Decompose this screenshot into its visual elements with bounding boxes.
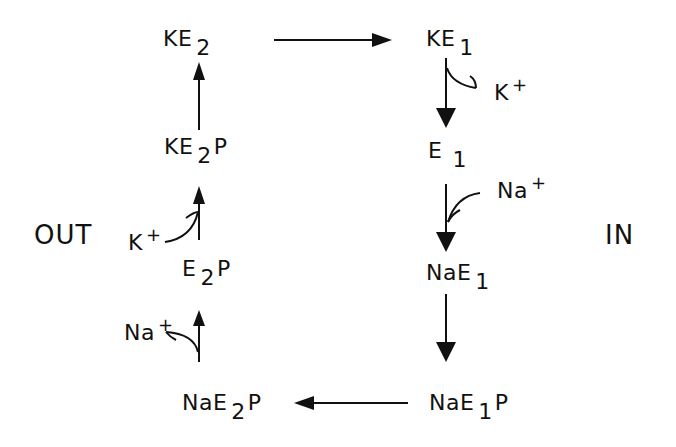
ion-k-release-in: K+ (494, 82, 528, 104)
k-bind-curve (165, 212, 198, 242)
state-subscript: 1 (475, 269, 490, 294)
arrow-ke1-to-e1 (436, 58, 456, 128)
state-base: KE (164, 134, 193, 159)
state-ke1: KE1 (426, 28, 476, 50)
state-subscript: 1 (452, 147, 467, 172)
state-ke2: KE2 (163, 28, 213, 50)
ion-charge: + (512, 74, 528, 95)
arrow-nae1p-to-nae2p (294, 396, 408, 410)
arrow-nae2p-to-e2p (193, 310, 205, 362)
state-nae1: NaE1 (426, 262, 492, 284)
state-subscript: 2 (197, 143, 212, 168)
state-subscript: 2 (200, 265, 215, 290)
ion-base: Na (124, 320, 155, 345)
arrow-e1-to-nae1 (436, 184, 456, 252)
state-base: KE (163, 26, 192, 51)
state-suffix: P (248, 390, 262, 415)
ion-charge: + (531, 172, 547, 193)
ion-base: K (494, 80, 509, 105)
state-subscript: 1 (459, 35, 474, 60)
compartment-in-label: IN (605, 222, 634, 248)
ion-charge: + (146, 224, 162, 245)
state-base: E (182, 256, 196, 281)
state-nae1p: NaE1P (429, 392, 509, 414)
state-subscript: 1 (478, 399, 493, 424)
state-subscript: 2 (231, 399, 246, 424)
state-e1: E1 (428, 140, 469, 162)
arrow-ke2p-to-ke2 (193, 62, 205, 130)
ion-na-bind-in: Na+ (497, 180, 547, 202)
ion-base: K (128, 230, 143, 255)
compartment-out-label: OUT (34, 222, 92, 248)
state-subscript: 2 (196, 35, 211, 60)
ion-charge: + (158, 314, 174, 335)
ion-na-release-out: Na+ (124, 322, 174, 344)
state-e2p: E2P (182, 258, 231, 280)
state-base: KE (426, 26, 455, 51)
state-nae2p: NaE2P (182, 392, 262, 414)
ion-k-bind-out: K+ (128, 232, 162, 254)
na-bind-curve (448, 193, 480, 222)
arrow-ke2-to-ke1 (274, 33, 392, 47)
state-base: NaE (182, 390, 227, 415)
state-suffix: P (214, 134, 228, 159)
ion-base: Na (497, 178, 528, 203)
state-base: NaE (429, 390, 474, 415)
arrows-layer (0, 0, 676, 447)
state-base: NaE (426, 260, 471, 285)
state-base: E (428, 138, 442, 163)
arrow-nae1-to-nae1p (436, 294, 456, 362)
state-ke2p: KE2P (164, 136, 228, 158)
state-suffix: P (217, 256, 231, 281)
reaction-cycle-diagram: OUT IN KE2 KE1 K+ E1 Na+ NaE1 NaE1P NaE2… (0, 0, 676, 447)
state-suffix: P (495, 390, 509, 415)
